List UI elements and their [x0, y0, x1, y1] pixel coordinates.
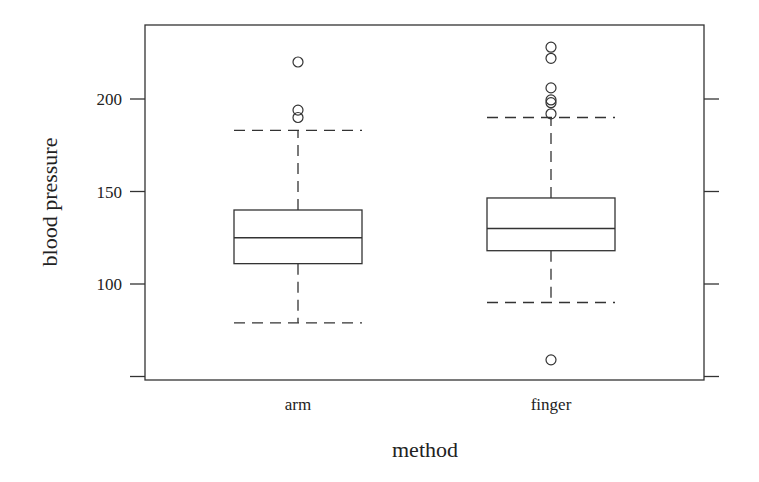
- iqr-box: [234, 210, 362, 264]
- y-axis-right: [704, 99, 719, 377]
- x-axis-labels: armfinger: [285, 395, 572, 414]
- outlier-point: [546, 355, 556, 365]
- outlier-point: [546, 53, 556, 63]
- outlier-point: [293, 57, 303, 67]
- outlier-point: [546, 83, 556, 93]
- box-arm: [234, 57, 362, 323]
- y-tick-label: 150: [97, 183, 123, 202]
- outlier-point: [293, 105, 303, 115]
- box-finger: [487, 42, 615, 365]
- x-category-label: arm: [285, 395, 311, 414]
- y-axis-title: blood pressure: [37, 138, 62, 267]
- y-tick-label: 200: [97, 90, 123, 109]
- x-axis-title: method: [392, 437, 458, 462]
- boxes: [234, 42, 615, 365]
- iqr-box: [487, 198, 615, 251]
- x-category-label: finger: [531, 395, 572, 414]
- plot-frame: [145, 25, 704, 380]
- y-tick-label: 100: [97, 275, 123, 294]
- y-axis-left: 100150200: [97, 90, 146, 377]
- boxplot-chart: 100150200 armfinger method blood pressur…: [0, 0, 759, 482]
- outlier-point: [546, 42, 556, 52]
